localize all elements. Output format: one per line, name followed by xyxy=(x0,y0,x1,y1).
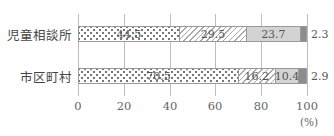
bar-segment-hatch: 16.2 xyxy=(239,69,276,83)
gridline-100 xyxy=(307,14,308,96)
x-tick-80: 80 xyxy=(254,99,269,113)
bar-segment-lightgray: 10.4 xyxy=(276,69,300,83)
value-label: 29.5 xyxy=(200,29,227,40)
bar-shikuchoson: 70.5 16.2 10.4 xyxy=(78,68,307,84)
value-label-outside: 2.3 xyxy=(311,28,329,41)
bar-segment-darkgray xyxy=(301,27,306,41)
x-axis-unit: (%) xyxy=(300,116,318,128)
value-label: 70.5 xyxy=(145,71,172,82)
value-label: 44.5 xyxy=(116,29,143,40)
x-tick-60: 60 xyxy=(208,99,223,113)
stacked-bar-chart: 児童相談所 市区町村 44.5 29.5 23.7 2.3 70.5 16.2 … xyxy=(0,0,334,136)
value-label-outside: 2.9 xyxy=(311,70,329,83)
category-label-shikuchoson: 市区町村 xyxy=(2,67,72,86)
x-tick-100: 100 xyxy=(296,99,318,113)
bar-segment-lightgray: 23.7 xyxy=(247,27,301,41)
bar-segment-dots: 44.5 xyxy=(79,27,180,41)
bar-segment-hatch: 29.5 xyxy=(180,27,247,41)
bar-segment-dots: 70.5 xyxy=(79,69,239,83)
x-tick-20: 20 xyxy=(117,99,132,113)
value-label: 10.4 xyxy=(274,71,301,82)
value-label: 16.2 xyxy=(243,71,270,82)
x-tick-0: 0 xyxy=(74,99,81,113)
value-label: 23.7 xyxy=(260,29,287,40)
x-tick-40: 40 xyxy=(163,99,178,113)
bar-jidou-soudanjo: 44.5 29.5 23.7 xyxy=(78,26,307,42)
bar-segment-darkgray xyxy=(299,69,306,83)
category-label-jidou-soudanjo: 児童相談所 xyxy=(2,25,72,44)
